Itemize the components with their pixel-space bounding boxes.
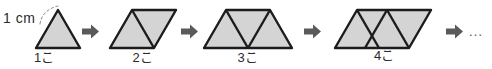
triangle-sequence-figure: 1 cm 1こ 2こ 3こ: [0, 0, 492, 69]
stage-3: 3こ: [200, 0, 295, 69]
right-arrow-icon: [304, 24, 321, 39]
arrow-stage-1-to-2: [82, 24, 99, 39]
stage-1: 1 cm 1こ: [0, 0, 88, 69]
right-arrow-icon: [446, 24, 463, 39]
continuation-ellipsis: …: [468, 22, 485, 39]
stage-4-count-label: 4こ: [330, 45, 438, 64]
stage-2: 2こ: [105, 0, 180, 69]
right-arrow-icon: [181, 24, 198, 39]
right-arrow-icon: [82, 24, 99, 39]
stage-4: 4こ: [330, 0, 438, 69]
arrow-stage-4-to-next: [446, 24, 463, 39]
stage-1-count-label: 1こ: [0, 47, 88, 66]
arrow-stage-2-to-3: [181, 24, 198, 39]
stage-3-count-label: 3こ: [200, 47, 295, 66]
stage-2-count-label: 2こ: [105, 47, 180, 66]
arrow-stage-3-to-4: [304, 24, 321, 39]
